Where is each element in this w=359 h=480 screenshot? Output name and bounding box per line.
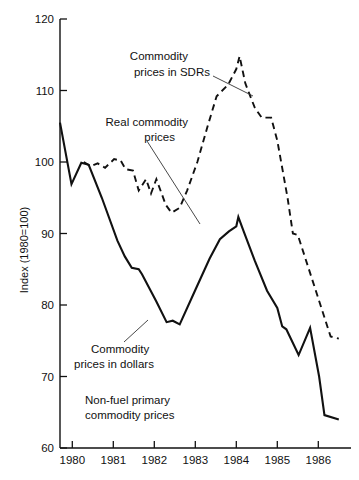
- y-tick-label-100: 100: [35, 156, 54, 168]
- axes-group: 60708090100110120 1980198119821983198419…: [35, 13, 351, 466]
- annotation-sdr-line2: prices in SDRs: [134, 66, 210, 78]
- y-tick-label-120: 120: [35, 13, 54, 25]
- x-tick-label-1981: 1981: [101, 454, 127, 466]
- figure-container: y 60708090100110120 19801981198219831984…: [0, 0, 359, 480]
- annotation-real-line1: Real commodity: [106, 116, 189, 128]
- annotation-sdr-line1: Commodity: [130, 50, 188, 62]
- series-line-commodity-prices-in-sdrs: [84, 56, 339, 338]
- annotation-caption-line2: commodity prices: [85, 409, 175, 421]
- y-tick-label-90: 90: [41, 228, 54, 240]
- annotation-real-line2: prices: [144, 131, 175, 143]
- x-tick-label-1980: 1980: [60, 454, 86, 466]
- y-tick-group: [60, 19, 67, 448]
- line-chart-canvas: 60708090100110120 1980198119821983198419…: [0, 0, 359, 480]
- x-tick-label-1983: 1983: [183, 454, 209, 466]
- x-tick-label-group: 1980198119821983198419851986: [60, 454, 332, 466]
- annotation-caption-line1: Non-fuel primary: [85, 394, 170, 406]
- y-tick-label-70: 70: [41, 371, 54, 383]
- annotation-text-group: Commodity prices in SDRs Real commodity …: [74, 50, 210, 421]
- series-line-commodity-prices-in-dollars: [60, 123, 339, 420]
- x-tick-group: [72, 441, 318, 448]
- x-tick-label-1985: 1985: [265, 454, 291, 466]
- y-tick-label-110: 110: [36, 85, 54, 97]
- annotation-dollar-line1: Commodity: [91, 343, 149, 355]
- x-tick-label-1982: 1982: [142, 454, 168, 466]
- x-tick-label-1986: 1986: [306, 454, 332, 466]
- y-tick-label-60: 60: [41, 442, 54, 454]
- x-tick-label-1984: 1984: [224, 454, 250, 466]
- y-axis-title: Index (1980=100): [18, 207, 30, 294]
- annotation-dollar-line2: prices in dollars: [74, 358, 154, 370]
- y-tick-label-group: 60708090100110120: [35, 13, 54, 454]
- leader-line-dollar: [124, 320, 148, 342]
- y-tick-label-80: 80: [41, 299, 54, 311]
